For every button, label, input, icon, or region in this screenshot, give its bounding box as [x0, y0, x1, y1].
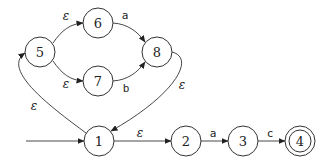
state-7: 7	[83, 66, 113, 96]
svg-text:7: 7	[94, 74, 102, 89]
state-8: 8	[142, 37, 172, 67]
svg-text:4: 4	[296, 134, 304, 149]
label-5-to-7: ε	[63, 77, 69, 91]
svg-text:1: 1	[95, 134, 103, 149]
edge-7-to-8	[113, 62, 145, 81]
svg-text:2: 2	[182, 134, 190, 149]
label-6-to-8: a	[122, 9, 129, 22]
state-2: 2	[171, 126, 201, 156]
svg-text:3: 3	[239, 134, 247, 149]
label-5-to-6: ε	[63, 9, 69, 23]
nfa-diagram: ε ε ε a b ε ε a c 5 6 7 8 1 2 3 4	[0, 0, 330, 167]
label-1-to-2: ε	[137, 126, 143, 140]
edge-8-to-1	[111, 52, 182, 131]
svg-text:5: 5	[36, 45, 44, 60]
state-3: 3	[228, 126, 258, 156]
label-7-to-8: b	[123, 82, 130, 95]
state-4-accepting: 4	[285, 126, 315, 156]
edge-6-to-8	[113, 23, 145, 42]
svg-text:6: 6	[94, 16, 102, 31]
label-2-to-3: a	[210, 127, 217, 140]
state-1: 1	[84, 126, 114, 156]
svg-text:8: 8	[153, 45, 161, 60]
state-5: 5	[25, 37, 55, 67]
edge-5-to-6	[53, 23, 83, 43]
label-3-to-4: c	[267, 127, 274, 140]
edge-1-to-5	[19, 53, 86, 133]
state-6: 6	[83, 8, 113, 38]
label-8-to-1: ε	[179, 78, 185, 92]
label-1-to-5: ε	[31, 99, 37, 113]
